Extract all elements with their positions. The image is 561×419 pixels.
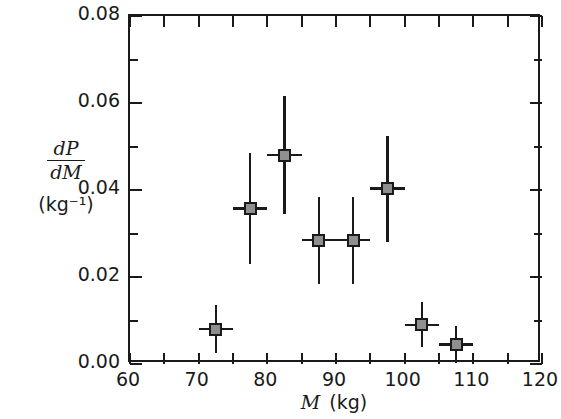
x-axis-tick	[198, 353, 200, 364]
y-axis-tick	[530, 363, 542, 365]
x-tick-label: 60	[98, 368, 158, 390]
y-axis-numerator: dP	[47, 138, 85, 159]
x-axis-tick	[266, 16, 268, 27]
data-point-marker	[312, 234, 325, 247]
x-axis-tick	[369, 16, 371, 27]
x-axis-tick	[232, 16, 234, 27]
y-axis-tick	[130, 233, 138, 235]
x-tick-label: 70	[167, 368, 227, 390]
x-axis-tick	[438, 16, 440, 27]
x-tick-label: 90	[304, 368, 364, 390]
y-axis-tick	[130, 276, 142, 278]
x-axis-tick	[301, 16, 303, 27]
plot-area	[130, 16, 538, 360]
x-axis-tick	[335, 353, 337, 364]
x-axis-tick	[266, 353, 268, 364]
x-axis-unit: (kg)	[329, 391, 367, 413]
y-axis-tick	[534, 59, 542, 61]
x-axis-tick	[404, 16, 406, 27]
x-tick-label: 100	[373, 368, 433, 390]
x-axis-tick	[507, 353, 509, 364]
y-tick-label: 0.02	[58, 263, 120, 285]
y-tick-label: 0.08	[58, 2, 120, 24]
data-point-marker	[209, 323, 222, 336]
x-tick-label: 80	[235, 368, 295, 390]
y-axis-tick	[534, 233, 542, 235]
data-point-marker	[244, 202, 257, 215]
y-axis-tick	[534, 320, 542, 322]
x-axis-variable: M	[301, 391, 320, 413]
x-tick-label: 120	[510, 368, 561, 390]
x-axis-tick	[163, 353, 165, 364]
y-axis-tick	[130, 15, 142, 17]
y-axis-tick	[534, 146, 542, 148]
x-axis-tick	[335, 16, 337, 27]
y-axis-tick	[130, 363, 142, 365]
chart-figure: dP dM (kg⁻¹) M(kg) 0.000.020.040.060.086…	[0, 0, 561, 419]
data-point-marker	[450, 338, 463, 351]
x-axis-tick	[404, 353, 406, 364]
x-axis-tick	[232, 353, 234, 364]
x-axis-tick	[198, 16, 200, 27]
data-point-marker	[278, 149, 291, 162]
x-axis-tick	[472, 16, 474, 27]
y-axis-tick	[530, 15, 542, 17]
y-axis-tick	[530, 102, 542, 104]
x-axis-tick	[163, 16, 165, 27]
y-axis-tick	[530, 189, 542, 191]
data-point-marker	[381, 182, 394, 195]
x-axis-tick	[472, 353, 474, 364]
y-axis-tick	[130, 146, 138, 148]
data-point-marker	[415, 318, 428, 331]
y-axis-tick	[130, 102, 142, 104]
data-point-marker	[347, 234, 360, 247]
x-axis-tick	[129, 16, 131, 27]
y-axis-tick	[130, 59, 138, 61]
x-axis-tick	[438, 353, 440, 364]
x-axis-tick	[369, 353, 371, 364]
y-tick-label: 0.04	[58, 176, 120, 198]
plot-frame	[128, 14, 540, 362]
x-axis-tick	[507, 16, 509, 27]
y-axis-tick	[530, 276, 542, 278]
x-axis-tick	[541, 16, 543, 27]
x-axis-tick	[301, 353, 303, 364]
y-tick-label: 0.06	[58, 89, 120, 111]
x-axis-label: M(kg)	[128, 391, 540, 413]
x-tick-label: 110	[441, 368, 501, 390]
y-axis-tick	[130, 320, 138, 322]
y-axis-tick	[130, 189, 142, 191]
